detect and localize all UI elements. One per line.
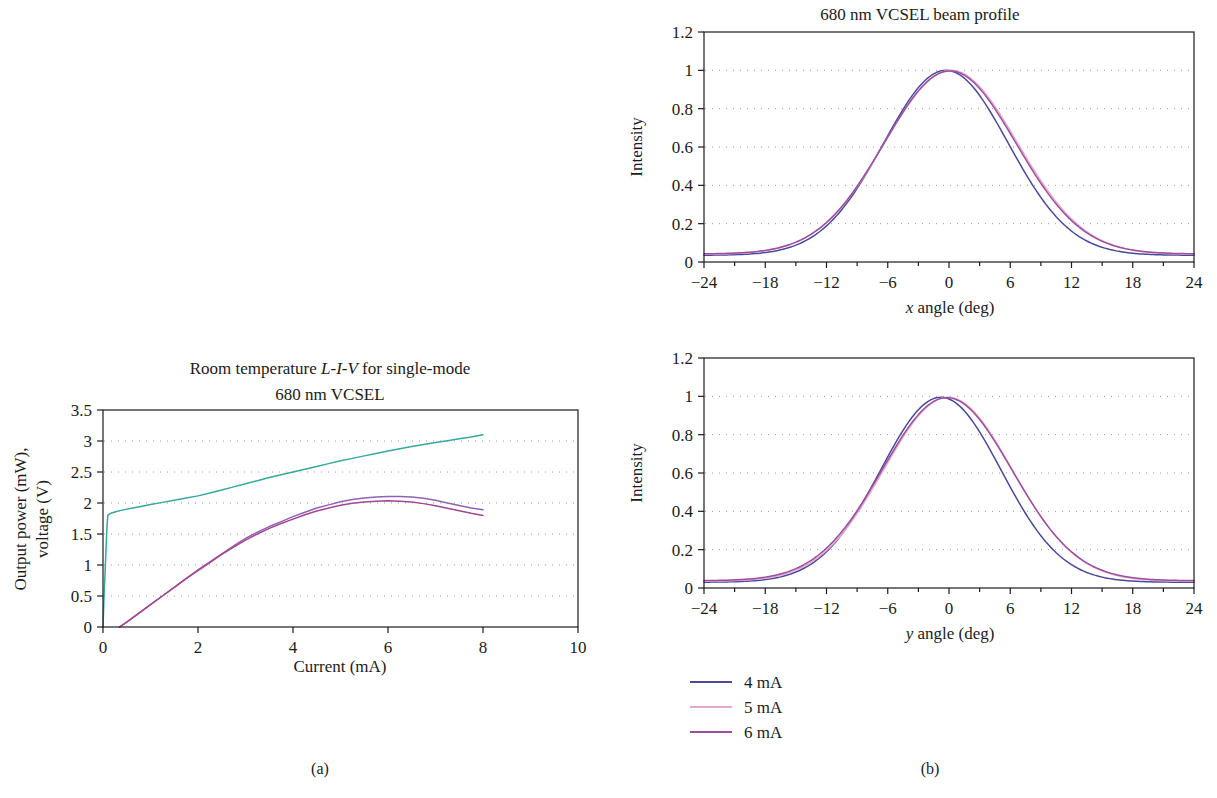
y-tick-label: 0 xyxy=(685,579,694,598)
x-tick-label: 10 xyxy=(570,638,587,657)
y-tick-label: 1.2 xyxy=(672,23,693,42)
x-tick-label: −24 xyxy=(691,599,718,618)
y-tick-label: 1 xyxy=(685,61,694,80)
chart-beam-x-canvas: 680 nm VCSEL beam profile−24−18−12−60612… xyxy=(620,0,1217,325)
series-power-lower xyxy=(120,501,483,627)
y-tick-label: 0.2 xyxy=(672,541,693,560)
chart-title-line1: Room temperature L-I-V for single-mode xyxy=(190,359,470,378)
y-tick-label: 3.5 xyxy=(71,401,92,420)
y-tick-label: 0.4 xyxy=(672,176,694,195)
chart-liv-canvas: Room temperature L-I-V for single-mode68… xyxy=(0,352,610,682)
y-tick-label: 3 xyxy=(84,432,93,451)
y-tick-label: 0 xyxy=(84,618,93,637)
x-tick-label: 0 xyxy=(945,599,954,618)
x-tick-label: 0 xyxy=(945,273,954,292)
x-tick-label: 2 xyxy=(194,638,203,657)
series-6-ma xyxy=(704,71,1194,254)
x-tick-label: 8 xyxy=(479,638,488,657)
y-tick-label: 0.8 xyxy=(672,100,693,119)
y-tick-label: 0 xyxy=(685,253,694,272)
chart-beam-y-canvas: −24−18−12−60612182400.20.40.60.811.2Inte… xyxy=(620,330,1217,655)
x-tick-label: 6 xyxy=(1006,273,1015,292)
x-tick-label: 6 xyxy=(1006,599,1015,618)
y-axis-title: Intensity xyxy=(627,443,646,503)
x-tick-label: 6 xyxy=(384,638,393,657)
x-tick-label: −6 xyxy=(879,273,897,292)
y-tick-label: 0.2 xyxy=(672,215,693,234)
series-5-ma xyxy=(704,397,1194,581)
chart-beam-x: 680 nm VCSEL beam profile−24−18−12−60612… xyxy=(620,0,1217,325)
plot-frame xyxy=(704,358,1194,588)
series-4-ma xyxy=(704,397,1194,582)
chart-title: 680 nm VCSEL beam profile xyxy=(820,5,1019,24)
y-axis-title-line2: voltage (V) xyxy=(33,480,52,558)
y-tick-label: 0.6 xyxy=(672,138,693,157)
y-tick-label: 0.5 xyxy=(71,587,92,606)
series-6-ma xyxy=(704,398,1194,581)
chart-legend-canvas: 4 mA5 mA6 mA xyxy=(660,670,960,750)
series-5-ma xyxy=(704,70,1194,254)
x-tick-label: −6 xyxy=(879,599,897,618)
legend-label: 4 mA xyxy=(744,673,783,692)
chart-beam-y: −24−18−12−60612182400.20.40.60.811.2Inte… xyxy=(620,330,1217,655)
x-tick-label: −18 xyxy=(752,273,779,292)
plot-frame xyxy=(103,410,578,627)
legend-label: 6 mA xyxy=(744,723,783,742)
y-tick-label: 2 xyxy=(84,494,93,513)
y-tick-label: 2.5 xyxy=(71,463,92,482)
x-tick-label: −12 xyxy=(813,599,840,618)
y-tick-label: 1.5 xyxy=(71,525,92,544)
x-tick-label: −12 xyxy=(813,273,840,292)
y-tick-label: 0.8 xyxy=(672,426,693,445)
y-tick-label: 0.6 xyxy=(672,464,693,483)
x-tick-label: 4 xyxy=(289,638,298,657)
chart-legend: 4 mA5 mA6 mA xyxy=(660,670,960,750)
x-tick-label: 12 xyxy=(1063,599,1080,618)
x-axis-title: y angle (deg) xyxy=(904,624,995,643)
x-tick-label: 12 xyxy=(1063,273,1080,292)
x-tick-label: 0 xyxy=(99,638,108,657)
y-axis-title-line1: Output power (mW), xyxy=(11,447,30,590)
legend-label: 5 mA xyxy=(744,698,783,717)
x-axis-title: x angle (deg) xyxy=(905,298,995,317)
x-axis-title: Current (mA) xyxy=(293,657,386,676)
x-tick-label: 24 xyxy=(1186,599,1204,618)
subfigure-caption-b: (b) xyxy=(860,760,1000,778)
chart-title-line2: 680 nm VCSEL xyxy=(275,385,384,404)
series-4-ma xyxy=(704,70,1194,255)
y-axis-title: Intensity xyxy=(627,117,646,177)
y-tick-label: 1 xyxy=(685,387,694,406)
subfigure-caption-a: (a) xyxy=(250,760,390,778)
x-tick-label: 18 xyxy=(1124,273,1141,292)
x-tick-label: −18 xyxy=(752,599,779,618)
x-tick-label: 24 xyxy=(1186,273,1204,292)
y-tick-label: 1.2 xyxy=(672,349,693,368)
plot-frame xyxy=(704,32,1194,262)
chart-liv: Room temperature L-I-V for single-mode68… xyxy=(0,352,610,682)
x-tick-label: 18 xyxy=(1124,599,1141,618)
y-tick-label: 0.4 xyxy=(672,502,694,521)
figure-root: Room temperature L-I-V for single-mode68… xyxy=(0,0,1217,798)
y-tick-label: 1 xyxy=(84,556,93,575)
x-tick-label: −24 xyxy=(691,273,718,292)
